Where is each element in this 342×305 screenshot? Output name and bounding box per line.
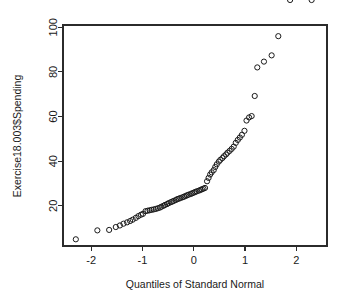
x-axis-label: Quantiles of Standard Normal — [126, 278, 264, 290]
qq-plot-canvas: -2-1012 20406080100 Quantiles of Standar… — [0, 0, 342, 305]
x-tick-label: 0 — [191, 254, 197, 266]
figure-background — [0, 0, 342, 305]
y-tick-label: 100 — [47, 18, 59, 36]
qq-plot-figure: -2-1012 20406080100 Quantiles of Standar… — [0, 0, 342, 305]
y-axis-label: Exercise18.003$Spending — [11, 75, 23, 198]
x-tick-label: 1 — [242, 254, 248, 266]
x-tick-label: 2 — [293, 254, 299, 266]
y-tick-label: 20 — [47, 200, 59, 212]
x-tick-label: -1 — [138, 254, 148, 266]
y-tick-label: 80 — [47, 66, 59, 78]
x-tick-label: -2 — [86, 254, 96, 266]
y-tick-label: 40 — [47, 155, 59, 167]
y-tick-label: 60 — [47, 110, 59, 122]
